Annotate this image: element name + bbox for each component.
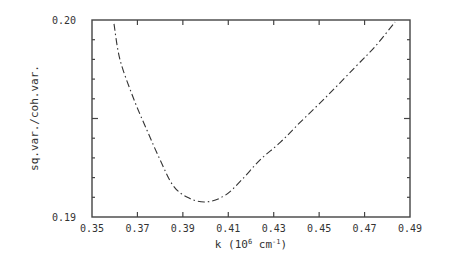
x-axis-label: k (106 cm-1) <box>215 238 287 251</box>
chart: 0.350.370.390.410.430.450.470.49 0.190.2… <box>0 0 455 261</box>
x-tick-label: 0.45 <box>307 223 331 234</box>
x-tick-label: 0.39 <box>171 223 195 234</box>
x-tick-label: 0.37 <box>125 223 149 234</box>
plot-frame <box>92 20 410 217</box>
x-tick-labels: 0.350.370.390.410.430.450.470.49 <box>80 223 422 234</box>
x-tick-label: 0.47 <box>353 223 377 234</box>
axis-ticks <box>92 20 410 217</box>
x-tick-label: 0.41 <box>216 223 240 234</box>
x-tick-label: 0.35 <box>80 223 104 234</box>
x-tick-label: 0.43 <box>262 223 286 234</box>
x-tick-label: 0.49 <box>398 223 422 234</box>
data-curve <box>114 22 395 202</box>
y-axis-label: sq.var./coh.var. <box>28 65 41 171</box>
y-tick-labels: 0.190.20 <box>52 15 76 223</box>
y-tick-label: 0.20 <box>52 15 76 26</box>
y-tick-label: 0.19 <box>52 212 76 223</box>
